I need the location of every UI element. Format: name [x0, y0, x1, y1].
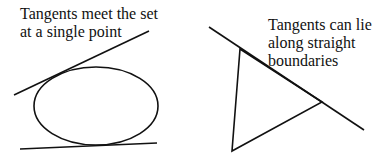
right-caption: Tangents can lie along straight boundari…	[268, 16, 372, 70]
left-caption-line-2: at a single point	[20, 23, 158, 41]
right-caption-line-3: boundaries	[268, 52, 372, 70]
right-caption-line-2: along straight	[268, 34, 372, 52]
right-caption-line-1: Tangents can lie	[268, 16, 372, 34]
left-caption-line-1: Tangents meet the set	[20, 5, 158, 23]
tangent-diagram: Tangents meet the set at a single point …	[0, 0, 389, 160]
left-caption: Tangents meet the set at a single point	[20, 5, 158, 41]
ellipse-lower-tangent-line	[20, 143, 157, 149]
convex-ellipse	[34, 67, 158, 145]
